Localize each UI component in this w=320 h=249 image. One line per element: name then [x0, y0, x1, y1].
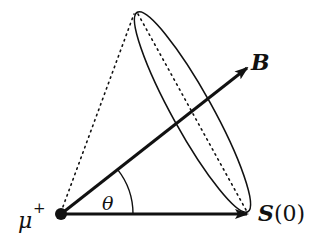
muon-charge-superscript: +: [33, 199, 46, 217]
magnetic-field-arrow: [61, 68, 247, 214]
spin-label-arg: (0): [274, 201, 305, 226]
field-label-B: B: [250, 49, 270, 75]
cone-edge-dotted-left: [61, 14, 134, 212]
spin-precession-diagram: θ μ + B S (0): [0, 0, 320, 249]
theta-label: θ: [102, 192, 114, 214]
angle-theta-arc: [118, 170, 133, 214]
spin-label-S: S: [258, 200, 274, 226]
muon-particle-dot: [55, 208, 67, 220]
muon-label: μ: [18, 208, 32, 233]
